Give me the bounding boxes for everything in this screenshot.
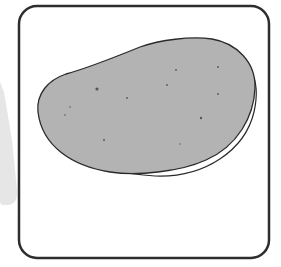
speckle bbox=[126, 97, 128, 99]
speckle bbox=[103, 139, 105, 141]
speckle bbox=[175, 69, 177, 71]
speckle bbox=[217, 66, 219, 68]
speckle bbox=[166, 84, 168, 86]
speckle bbox=[200, 117, 202, 119]
speckle bbox=[69, 106, 71, 108]
illustration-svg bbox=[0, 0, 281, 267]
speckle bbox=[179, 143, 180, 144]
speckle bbox=[217, 93, 219, 95]
side-shape bbox=[0, 82, 17, 205]
speckle bbox=[64, 114, 66, 116]
illustration-canvas bbox=[0, 0, 281, 267]
speckle bbox=[95, 87, 98, 90]
